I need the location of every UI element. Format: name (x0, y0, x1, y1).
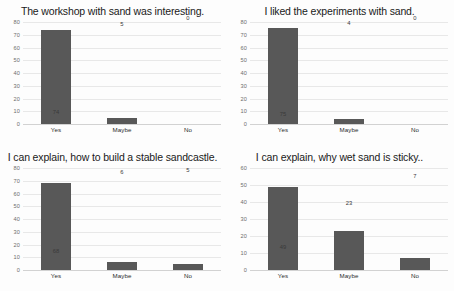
y-axis-tick-label: 70 (14, 32, 20, 38)
bar[interactable] (268, 187, 298, 270)
chart-title: I liked the experiments with sand. (229, 2, 450, 21)
bar-group: 0 (382, 22, 448, 124)
bar-value-label: 75 (280, 111, 287, 117)
x-axis: YesMaybeNo (23, 270, 221, 286)
y-axis-tick-label: 60 (241, 45, 247, 51)
y-axis-tick-label: 50 (241, 57, 247, 63)
bar-series: 7450 (23, 22, 221, 124)
y-axis-tick-label: 40 (14, 70, 20, 76)
y-axis-tick-label: 60 (241, 165, 247, 171)
x-axis-tick-label: Maybe (316, 126, 382, 133)
y-axis-tick-label: 10 (14, 254, 20, 260)
plot-area-wrapper: 010203040506070807540YesMaybeNo (229, 22, 450, 140)
plot-area-wrapper: 010203040506049237YesMaybeNo (229, 168, 450, 286)
bar[interactable] (334, 231, 364, 270)
y-axis-tick-label: 10 (241, 250, 247, 256)
x-axis-tick-label: Yes (250, 126, 316, 133)
x-axis: YesMaybeNo (250, 270, 448, 286)
bar-series: 49237 (250, 168, 448, 270)
y-axis-tick-label: 20 (241, 96, 247, 102)
y-axis: 01020304050607080 (2, 168, 22, 286)
y-axis: 0102030405060 (229, 168, 249, 286)
bar-value-label: 5 (120, 21, 123, 27)
y-axis-tick-label: 60 (14, 191, 20, 197)
bar-value-label: 23 (346, 200, 353, 206)
x-axis-tick-label: Maybe (316, 272, 382, 279)
y-axis-tick-label: 70 (241, 32, 247, 38)
plot-area-wrapper: 010203040506070806865YesMaybeNo (2, 168, 223, 286)
x-axis-tick-label: No (155, 272, 221, 279)
y-axis-tick-label: 80 (14, 165, 20, 171)
bar-series: 7540 (250, 22, 448, 124)
y-axis: 01020304050607080 (229, 22, 249, 140)
chart-panel-1: The workshop with sand was interesting.0… (0, 0, 227, 146)
bar-value-label: 49 (280, 244, 287, 250)
y-axis-tick-label: 30 (14, 229, 20, 235)
y-axis-tick-label: 10 (241, 108, 247, 114)
bar-value-label: 5 (186, 167, 189, 173)
y-axis-tick-label: 40 (241, 199, 247, 205)
chart-title: I can explain, why wet sand is sticky.. (229, 148, 450, 167)
x-axis-tick-label: Yes (250, 272, 316, 279)
plot-area: 49237 (250, 168, 448, 270)
y-axis-tick-label: 0 (17, 121, 20, 127)
bar-value-label: 0 (413, 15, 416, 21)
y-axis-tick-label: 50 (14, 57, 20, 63)
y-axis-tick-label: 70 (14, 178, 20, 184)
chart-panel-2: I liked the experiments with sand.010203… (227, 0, 454, 146)
plot-area: 7540 (250, 22, 448, 124)
x-axis-tick-label: Maybe (89, 272, 155, 279)
bar[interactable] (41, 183, 71, 270)
y-axis-tick-label: 50 (14, 203, 20, 209)
bar-group: 74 (23, 22, 89, 124)
bar-group: 68 (23, 168, 89, 270)
chart-title: I can explain, how to build a stable san… (2, 148, 223, 167)
y-axis-tick-label: 40 (14, 216, 20, 222)
y-axis-tick-label: 80 (14, 19, 20, 25)
x-axis-tick-label: Yes (23, 126, 89, 133)
x-axis: YesMaybeNo (250, 124, 448, 140)
chart-grid: The workshop with sand was interesting.0… (0, 0, 454, 291)
y-axis-tick-label: 0 (17, 267, 20, 273)
plot-area: 6865 (23, 168, 221, 270)
x-axis-tick-label: Yes (23, 272, 89, 279)
y-axis-tick-label: 10 (14, 108, 20, 114)
bar-group: 5 (155, 168, 221, 270)
y-axis-tick-label: 60 (14, 45, 20, 51)
bar-group: 7 (382, 168, 448, 270)
bar[interactable] (107, 262, 137, 270)
y-axis-tick-label: 30 (241, 83, 247, 89)
y-axis-tick-label: 30 (241, 216, 247, 222)
bar-value-label: 68 (53, 248, 60, 254)
bar-group: 75 (250, 22, 316, 124)
y-axis-tick-label: 40 (241, 70, 247, 76)
y-axis-tick-label: 30 (14, 83, 20, 89)
plot-area: 7450 (23, 22, 221, 124)
bar-series: 6865 (23, 168, 221, 270)
y-axis-tick-label: 50 (241, 182, 247, 188)
chart-panel-4: I can explain, why wet sand is sticky..0… (227, 146, 454, 291)
bar[interactable] (400, 258, 430, 270)
y-axis-tick-label: 0 (244, 121, 247, 127)
bar-group: 23 (316, 168, 382, 270)
chart-panel-3: I can explain, how to build a stable san… (0, 146, 227, 291)
plot-area-wrapper: 010203040506070807450YesMaybeNo (2, 22, 223, 140)
bar-group: 5 (89, 22, 155, 124)
y-axis-tick-label: 0 (244, 267, 247, 273)
bar-value-label: 4 (347, 20, 350, 26)
bar-value-label: 0 (186, 15, 189, 21)
bar-group: 0 (155, 22, 221, 124)
bar-value-label: 6 (120, 169, 123, 175)
x-axis-tick-label: No (382, 272, 448, 279)
chart-title: The workshop with sand was interesting. (2, 2, 223, 21)
bar-group: 6 (89, 168, 155, 270)
y-axis: 01020304050607080 (2, 22, 22, 140)
bar-group: 4 (316, 22, 382, 124)
y-axis-tick-label: 20 (241, 233, 247, 239)
x-axis: YesMaybeNo (23, 124, 221, 140)
x-axis-tick-label: Maybe (89, 126, 155, 133)
y-axis-tick-label: 20 (14, 242, 20, 248)
x-axis-tick-label: No (155, 126, 221, 133)
y-axis-tick-label: 80 (241, 19, 247, 25)
bar-value-label: 74 (53, 109, 60, 115)
